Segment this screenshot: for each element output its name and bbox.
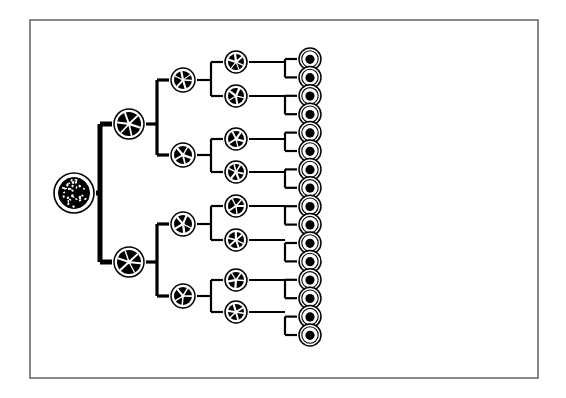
- generation-e1-cell-1: [54, 173, 94, 213]
- generation-e3-cell-3: [171, 212, 195, 236]
- generation-e3-cell-1: [171, 68, 195, 92]
- generation-e4-cell-3: [225, 128, 247, 150]
- generation-e5-cell-16: [299, 324, 321, 346]
- generation-e4-cell-6: [225, 229, 247, 251]
- generation-e3-cell-2: [171, 143, 195, 167]
- figure-canvas: [0, 0, 566, 398]
- generation-e4-cell-1: [225, 51, 247, 73]
- generation-e4-cell-8: [225, 301, 247, 323]
- generation-e4-cell-7: [225, 269, 247, 291]
- generation-e4-cell-5: [225, 195, 247, 217]
- generation-e4-cell-4: [225, 161, 247, 183]
- generation-e3-cell-4: [171, 284, 195, 308]
- generation-e4-cell-2: [225, 85, 247, 107]
- generation-e2-cell-1: [114, 109, 144, 139]
- lineage-diagram-svg: [0, 0, 566, 398]
- generation-e2-cell-2: [114, 247, 144, 277]
